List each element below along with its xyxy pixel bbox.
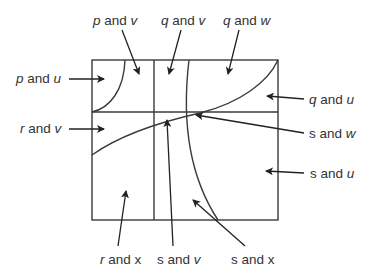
arrow-r-and-x	[118, 191, 126, 246]
label-r-and-v: r and v	[20, 121, 63, 136]
arrow-q-and-u	[267, 96, 304, 99]
diagram-svg: p and v q and v q and w p and u q and u …	[0, 0, 369, 280]
arrow-s-and-w	[196, 115, 304, 133]
quarter-arc-curve	[92, 60, 125, 112]
arrow-q-and-w	[228, 30, 239, 74]
label-p-and-u: p and u	[15, 71, 62, 86]
label-s-and-v: s and v	[157, 252, 202, 267]
label-q-and-u: q and u	[309, 92, 355, 107]
arrow-s-and-u	[266, 171, 304, 173]
label-p-and-v: p and v	[92, 13, 139, 28]
rising-curve	[92, 60, 278, 155]
label-q-and-v: q and v	[161, 13, 207, 28]
label-s-and-w: s and w	[309, 126, 357, 141]
falling-curve	[186, 60, 218, 220]
region-diagram: p and v q and v q and w p and u q and u …	[0, 0, 369, 280]
arrow-q-and-v	[169, 30, 181, 74]
arrow-s-and-v	[167, 120, 173, 246]
label-s-and-x: s and x	[231, 252, 275, 267]
label-r-and-x: r and x	[100, 252, 142, 267]
arrow-s-and-x	[193, 200, 245, 246]
label-s-and-u: s and u	[310, 166, 355, 181]
label-q-and-w: q and w	[223, 13, 272, 28]
outer-box	[92, 60, 278, 220]
